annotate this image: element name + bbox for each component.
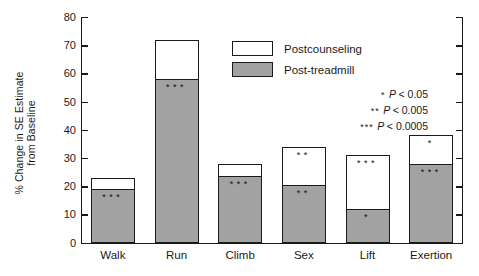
y-axis-title: % Change in SE Estimate from Baseline <box>11 33 41 233</box>
y-tick-left-50 <box>81 102 88 103</box>
bar-segment-post-treadmill-lift: * <box>346 209 390 243</box>
y-tick-left-70 <box>81 45 88 46</box>
y-tick-label-30: 30 <box>64 152 76 164</box>
y-tick-label-60: 60 <box>64 67 76 79</box>
bar-segment-post-treadmill-climb: *** <box>218 176 262 242</box>
y-tick-label-50: 50 <box>64 96 76 108</box>
y-tick-left-30 <box>81 158 88 159</box>
y-tick-right-80 <box>456 17 463 18</box>
y-tick-right-70 <box>456 45 463 46</box>
legend-item-postcounseling: Postcounseling <box>232 40 362 57</box>
significance-note-stars-1: * <box>381 90 389 100</box>
legend-label-postcounseling: Postcounseling <box>284 43 362 55</box>
bar-walk: *** <box>91 178 135 243</box>
y-tick-right-30 <box>456 158 463 159</box>
y-tick-left-10 <box>81 214 88 215</box>
significance-note-symbol-2: P <box>383 104 393 116</box>
significance-note-threshold-1: < 0.05 <box>399 88 429 100</box>
y-tick-right-50 <box>456 102 463 103</box>
bar-segment-post-treadmill-sex: ** <box>282 185 326 243</box>
significance-note-2: ** P < 0.005 <box>280 104 428 117</box>
y-tick-label-0: 0 <box>70 237 76 249</box>
significance-note-stars-2: ** <box>371 106 384 116</box>
y-tick-label-80: 80 <box>64 11 76 23</box>
bar-segment-post-treadmill-exertion: *** <box>409 164 453 243</box>
y-tick-right-60 <box>456 73 463 74</box>
bar-sex: **** <box>282 147 326 243</box>
y-tick-left-0 <box>81 243 88 244</box>
y-tick-left-60 <box>81 73 88 74</box>
x-axis-label-exertion: Exertion <box>386 249 476 261</box>
y-tick-right-0 <box>456 243 463 244</box>
significance-stars-postcounseling-sex: ** <box>283 151 325 160</box>
significance-stars-postcounseling-exertion: * <box>410 139 452 148</box>
legend-item-post-treadmill: Post-treadmill <box>232 61 362 78</box>
bar-lift: **** <box>346 155 390 242</box>
y-tick-label-40: 40 <box>64 124 76 136</box>
significance-note-symbol-3: P <box>377 120 387 132</box>
x-axis-line <box>81 243 463 244</box>
y-tick-label-10: 10 <box>64 208 76 220</box>
significance-stars-postcounseling-lift: *** <box>347 159 389 168</box>
bar-climb: *** <box>218 164 262 243</box>
significance-note-threshold-2: < 0.005 <box>393 104 428 116</box>
significance-note-threshold-3: < 0.0005 <box>387 120 428 132</box>
bar-chart-figure: % Change in SE Estimate from Baseline 01… <box>0 0 479 276</box>
significance-stars-post-treadmill-walk: *** <box>92 193 134 202</box>
significance-stars-post-treadmill-lift: * <box>347 213 389 222</box>
significance-stars-post-treadmill-run: *** <box>156 83 198 92</box>
y-tick-right-20 <box>456 186 463 187</box>
y-tick-right-10 <box>456 214 463 215</box>
significance-stars-post-treadmill-exertion: *** <box>410 168 452 177</box>
y-tick-left-40 <box>81 130 88 131</box>
y-tick-label-70: 70 <box>64 39 76 51</box>
bar-segment-post-treadmill-walk: *** <box>91 189 135 243</box>
significance-note-symbol-1: P <box>389 88 399 100</box>
significance-note-stars-3: *** <box>360 122 377 132</box>
y-tick-left-20 <box>81 186 88 187</box>
legend-label-post-treadmill: Post-treadmill <box>284 64 354 76</box>
legend-swatch-post-treadmill <box>232 62 273 77</box>
legend: Postcounseling Post-treadmill <box>232 40 362 82</box>
bar-run: *** <box>155 40 199 243</box>
significance-note-1: * P < 0.05 <box>280 88 428 101</box>
significance-stars-post-treadmill-climb: *** <box>219 180 261 189</box>
y-tick-right-40 <box>456 130 463 131</box>
bar-exertion: **** <box>409 135 453 242</box>
legend-swatch-postcounseling <box>232 41 273 56</box>
significance-note-3: *** P < 0.0005 <box>280 120 428 133</box>
y-axis-title-line-2: from Baseline <box>26 100 38 166</box>
significance-notes: * P < 0.05** P < 0.005*** P < 0.0005 <box>280 88 428 135</box>
y-tick-left-80 <box>81 17 88 18</box>
significance-stars-post-treadmill-sex: ** <box>283 189 325 198</box>
y-tick-label-20: 20 <box>64 180 76 192</box>
bar-segment-post-treadmill-run: *** <box>155 79 199 243</box>
